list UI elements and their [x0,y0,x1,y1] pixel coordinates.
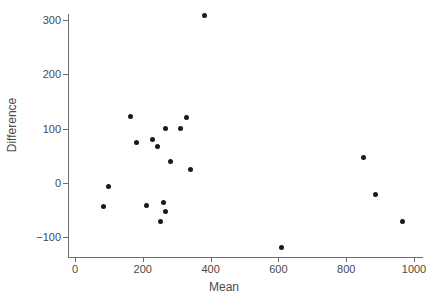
x-axis-tick [75,257,76,262]
x-axis-tick-label: 200 [134,264,152,275]
data-point [161,200,166,205]
data-point [144,203,149,208]
x-axis-tick-label: 1000 [402,264,426,275]
x-axis-tick-label: 600 [269,264,287,275]
data-point [101,204,106,209]
x-axis-tick-label: 0 [72,264,78,275]
x-axis-tick [346,257,347,262]
x-axis-tick-label: 800 [337,264,355,275]
data-point [202,13,207,18]
data-point [373,192,378,197]
plot-area [68,10,423,257]
y-axis-title: Difference [5,65,19,185]
x-axis-tick [211,257,212,262]
x-axis-line [68,257,423,258]
data-point [134,140,139,145]
data-point [361,155,366,160]
data-point [158,219,163,224]
y-axis-tick-label: 200 [43,69,61,80]
y-axis-tick-label: 300 [43,15,61,26]
data-point [400,219,405,224]
x-axis-title: Mean [0,280,448,294]
data-point [279,245,284,250]
x-axis-tick [278,257,279,262]
y-axis-tick-label: −100 [36,232,61,243]
data-point [178,126,183,131]
x-axis-tick [143,257,144,262]
y-axis-tick-label: 0 [55,178,61,189]
x-axis-tick-label: 400 [201,264,219,275]
x-axis-tick [414,257,415,262]
scatter-plot-figure: −1000100200300 02004006008001000 Mean Di… [0,0,448,300]
y-axis-tick-label: 100 [43,123,61,134]
